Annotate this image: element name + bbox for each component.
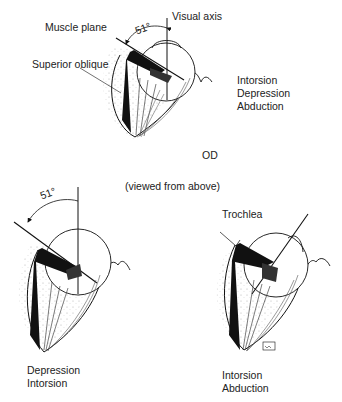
top-action-abduction: Abduction: [237, 100, 290, 113]
bottom-left-eye-diagram: [14, 187, 130, 352]
muscle-plane-label: Muscle plane: [45, 21, 107, 34]
visual-axis-label: Visual axis: [172, 10, 222, 23]
top-action-depression: Depression: [237, 87, 290, 100]
superior-oblique-label: Superior oblique: [32, 58, 108, 71]
eye-od-label: OD: [202, 149, 218, 162]
bl-action-depression: Depression: [27, 364, 80, 377]
br-action-abduction: Abduction: [222, 382, 269, 395]
bl-action-intorsion: Intorsion: [27, 377, 80, 390]
caption-viewed-from-above: (viewed from above): [125, 180, 220, 193]
top-actions-list: Intorsion Depression Abduction: [237, 74, 290, 113]
top-eye-diagram: [80, 18, 212, 140]
bottom-left-actions-list: Depression Intorsion: [27, 364, 80, 390]
br-action-intorsion: Intorsion: [222, 369, 269, 382]
bottom-right-actions-list: Intorsion Abduction: [222, 369, 269, 395]
top-action-intorsion: Intorsion: [237, 74, 290, 87]
trochlea-label: Trochlea: [222, 208, 262, 221]
bottom-right-eye-diagram: [217, 214, 330, 351]
